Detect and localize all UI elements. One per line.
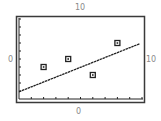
plot-frame	[17, 17, 145, 103]
data-points	[41, 41, 120, 78]
scatter-plot	[0, 0, 161, 121]
fit-line	[19, 44, 140, 92]
axes	[19, 18, 143, 99]
